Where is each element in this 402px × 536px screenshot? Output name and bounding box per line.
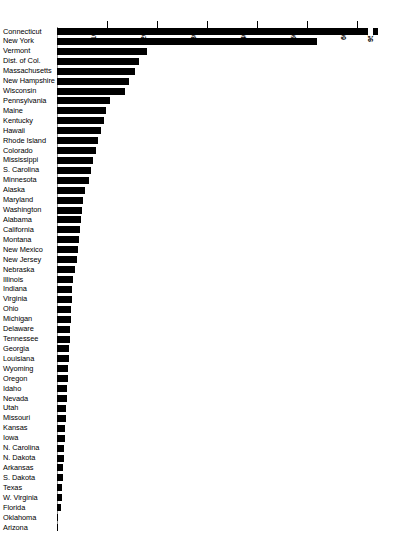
bar — [57, 266, 75, 273]
bar — [57, 336, 70, 343]
category-label: Massachusetts — [3, 67, 52, 75]
category-label: Arizona — [3, 524, 28, 532]
category-label: N. Dakota — [3, 454, 35, 462]
bar — [57, 68, 135, 75]
bar — [57, 167, 91, 174]
bar — [57, 97, 110, 104]
category-label: California — [3, 226, 34, 234]
bar — [57, 395, 67, 402]
category-label: Iowa — [3, 434, 18, 442]
category-label: Indiana — [3, 285, 27, 293]
category-label: Texas — [3, 484, 22, 492]
category-label: Arkansas — [3, 464, 33, 472]
category-label: Nevada — [3, 395, 28, 403]
bar — [57, 435, 65, 442]
category-label: Louisiana — [3, 355, 34, 363]
bar — [57, 216, 81, 223]
bar — [57, 306, 71, 313]
category-label: Tennessee — [3, 335, 38, 343]
plot-area — [57, 27, 402, 530]
category-label: Oklahoma — [3, 514, 36, 522]
bar — [57, 107, 106, 114]
bar — [57, 88, 125, 95]
category-label: Maryland — [3, 196, 33, 204]
bar — [57, 137, 98, 144]
category-label: Kansas — [3, 424, 27, 432]
category-label: Hawaii — [3, 127, 25, 135]
bar — [57, 246, 78, 253]
bar — [57, 415, 66, 422]
axis-break-stub — [373, 28, 378, 35]
category-label: Missouri — [3, 414, 30, 422]
category-label: Oregon — [3, 375, 27, 383]
category-label: Michigan — [3, 315, 32, 323]
bar-chart: 100200300400500600950 ConnecticutNew Yor… — [0, 0, 402, 536]
bar — [57, 28, 368, 35]
bar — [57, 117, 104, 124]
bar — [57, 157, 93, 164]
bar — [57, 365, 68, 372]
bar — [57, 38, 317, 45]
category-label: Kentucky — [3, 117, 33, 125]
category-label: Nebraska — [3, 266, 34, 274]
bar — [57, 286, 72, 293]
bar — [57, 445, 64, 452]
bar — [57, 187, 85, 194]
category-label: Vermont — [3, 47, 30, 55]
bar — [57, 127, 101, 134]
category-label: Ohio — [3, 305, 18, 313]
bar — [57, 474, 63, 481]
category-label: N. Carolina — [3, 444, 39, 452]
bar — [57, 197, 83, 204]
category-label: Idaho — [3, 385, 21, 393]
category-label: Wyoming — [3, 365, 33, 373]
bar — [57, 236, 79, 243]
category-label: W. Virginia — [3, 494, 38, 502]
bar — [57, 326, 70, 333]
bar — [57, 504, 61, 511]
category-label: New Hampshire — [3, 77, 55, 85]
category-label: Colorado — [3, 147, 33, 155]
bar — [57, 296, 72, 303]
bar — [57, 48, 147, 55]
bar — [57, 78, 129, 85]
bar — [57, 494, 62, 501]
category-label: New Mexico — [3, 246, 43, 254]
category-label: Mississippi — [3, 156, 38, 164]
bar — [57, 345, 69, 352]
category-labels: ConnecticutNew YorkVermontDist. of Col.M… — [3, 27, 55, 530]
category-label: S. Dakota — [3, 474, 35, 482]
category-label: Washington — [3, 206, 41, 214]
category-label: Utah — [3, 404, 18, 412]
bar — [57, 484, 62, 491]
bar — [57, 355, 69, 362]
bar — [57, 455, 64, 462]
category-label: Alabama — [3, 216, 32, 224]
bar — [57, 276, 73, 283]
bar — [57, 524, 58, 531]
category-label: Maine — [3, 107, 23, 115]
category-label: New York — [3, 37, 34, 45]
bar — [57, 464, 63, 471]
category-label: Dist. of Col. — [3, 57, 41, 65]
bar — [57, 147, 96, 154]
bar — [57, 514, 58, 521]
category-label: Rhode Island — [3, 137, 46, 145]
category-label: Connecticut — [3, 28, 41, 36]
category-label: Virginia — [3, 295, 27, 303]
bar — [57, 385, 67, 392]
bar — [57, 207, 82, 214]
category-label: S. Carolina — [3, 166, 39, 174]
bar — [57, 375, 68, 382]
category-label: Alaska — [3, 186, 25, 194]
category-label: Delaware — [3, 325, 34, 333]
category-label: Pennsylvania — [3, 97, 46, 105]
category-label: Wisconsin — [3, 87, 36, 95]
bar — [57, 226, 80, 233]
category-label: Florida — [3, 504, 25, 512]
bar — [57, 58, 139, 65]
category-label: New Jersey — [3, 256, 41, 264]
bar — [57, 256, 77, 263]
category-label: Montana — [3, 236, 31, 244]
bar — [57, 405, 66, 412]
